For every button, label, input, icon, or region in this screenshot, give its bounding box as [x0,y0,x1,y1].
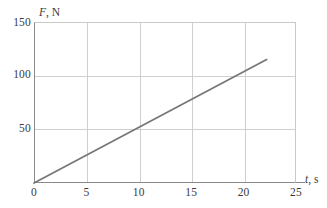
gridline-y-100 [35,76,295,77]
y-tick-label-150: 150 [1,17,31,29]
plot-area [34,22,296,183]
x-axis-extension [296,182,305,183]
y-tick-text-100: 100 [13,68,31,80]
gridline-x-20 [245,23,246,182]
gridline-y-50 [35,129,295,130]
x-tick-label-15: 15 [179,187,203,199]
y-axis-unit: , N [46,6,60,18]
y-tick-label-100: 100 [1,69,31,81]
x-tick-label-5: 5 [74,187,98,199]
gridline-x-15 [192,23,193,182]
x-tick-label-0: 0 [22,187,46,199]
x-tick-text-5: 5 [83,186,89,198]
x-tick-text-25: 25 [290,186,302,198]
y-axis-title: F, N [39,7,60,19]
force-vs-time-chart: F, N t, s 150 100 50 0 5 10 15 20 [0,0,327,208]
x-axis-title: t, s [305,174,318,186]
x-tick-label-10: 10 [127,187,151,199]
y-axis-variable: F [39,6,46,18]
x-tick-text-0: 0 [31,186,37,198]
gridline-x-10 [140,23,141,182]
y-tick-text-150: 150 [13,16,31,28]
x-tick-label-25: 25 [284,187,308,199]
x-axis-unit: , s [308,173,318,185]
x-tick-label-20: 20 [232,187,256,199]
gridline-x-5 [87,23,88,182]
y-tick-text-50: 50 [19,122,31,134]
x-tick-text-15: 15 [185,186,197,198]
x-tick-text-20: 20 [238,186,250,198]
y-tick-label-50: 50 [1,123,31,135]
x-tick-text-10: 10 [133,186,145,198]
